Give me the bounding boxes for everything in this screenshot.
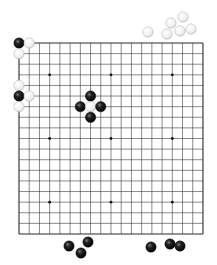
captured-stones bbox=[64, 12, 196, 258]
captured-black-stone bbox=[83, 237, 93, 247]
star-point bbox=[110, 73, 113, 76]
board-black-stone bbox=[85, 112, 95, 122]
board-white-stone bbox=[85, 101, 95, 111]
board-white-stone bbox=[24, 91, 34, 101]
captured-white-stone bbox=[186, 24, 196, 34]
star-point bbox=[110, 137, 113, 140]
captured-white-stone bbox=[143, 27, 153, 37]
board-white-stone bbox=[14, 80, 24, 90]
captured-black-stone bbox=[165, 239, 175, 249]
star-point bbox=[110, 201, 113, 204]
star-point bbox=[171, 201, 174, 204]
star-point bbox=[48, 137, 51, 140]
board-white-stone bbox=[14, 101, 24, 111]
captured-black-stone bbox=[175, 241, 185, 251]
captured-white-stone bbox=[166, 18, 176, 28]
star-point bbox=[171, 73, 174, 76]
go-diagram bbox=[0, 0, 217, 265]
star-point bbox=[171, 137, 174, 140]
go-board bbox=[0, 0, 217, 265]
board-white-stone bbox=[14, 48, 24, 58]
board-black-stone bbox=[14, 38, 24, 48]
captured-black-stone bbox=[146, 242, 156, 252]
captured-white-stone bbox=[178, 12, 188, 22]
board-black-stone bbox=[75, 101, 85, 111]
star-point bbox=[48, 201, 51, 204]
board-white-stone bbox=[24, 38, 34, 48]
captured-black-stone bbox=[76, 248, 86, 258]
star-point bbox=[48, 73, 51, 76]
captured-white-stone bbox=[162, 29, 172, 39]
captured-white-stone bbox=[175, 26, 185, 36]
board-black-stone bbox=[85, 91, 95, 101]
captured-black-stone bbox=[64, 241, 74, 251]
board-black-stone bbox=[96, 101, 106, 111]
board-black-stone bbox=[14, 91, 24, 101]
